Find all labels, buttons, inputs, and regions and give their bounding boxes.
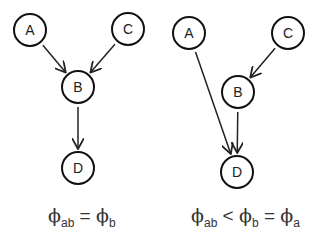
phi-symbol: ϕb	[96, 205, 116, 226]
node-d: D	[221, 156, 253, 188]
node-label: D	[232, 164, 242, 180]
phi-symbol: ϕb	[239, 205, 259, 226]
edge-c-to-b	[90, 44, 115, 72]
edge-b-to-d	[237, 112, 238, 153]
node-d: D	[62, 152, 94, 184]
subscript: a	[293, 216, 300, 230]
edge-c-to-b	[250, 48, 275, 77]
edge-a-to-b	[43, 45, 66, 72]
node-label: A	[184, 25, 194, 41]
subscript: ab	[61, 216, 74, 230]
operator: <	[217, 205, 239, 226]
right-formula: ϕab < ϕb = ϕa	[191, 204, 300, 230]
node-c: C	[272, 17, 304, 49]
node-c: C	[112, 13, 144, 45]
left-formula: ϕab = ϕb	[48, 204, 116, 230]
subscript: b	[109, 216, 116, 230]
phi-symbol: ϕab	[48, 205, 74, 226]
right-graph: ACBD	[173, 17, 304, 188]
phi-symbol: ϕa	[280, 205, 300, 226]
node-label: C	[123, 21, 133, 37]
node-label: B	[233, 84, 242, 100]
subscript: b	[252, 216, 259, 230]
node-b: B	[222, 76, 254, 108]
node-label: A	[25, 22, 35, 38]
left-graph: ACBD	[14, 13, 144, 184]
node-b: B	[62, 71, 94, 103]
phi-symbol: ϕab	[191, 205, 217, 226]
node-a: A	[14, 14, 46, 46]
operator: =	[74, 205, 96, 226]
node-label: D	[73, 160, 83, 176]
node-label: B	[73, 79, 82, 95]
node-a: A	[173, 17, 205, 49]
subscript: ab	[204, 216, 217, 230]
operator: =	[259, 205, 281, 226]
node-label: C	[283, 25, 293, 41]
